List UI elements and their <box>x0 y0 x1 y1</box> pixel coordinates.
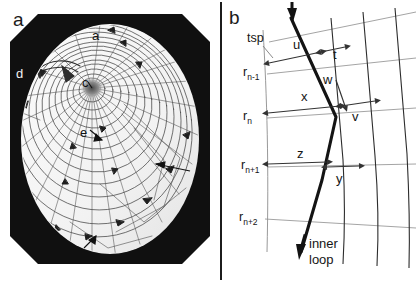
arrow-head-bottom <box>296 244 306 260</box>
rn-plus-2-sub: n+2 <box>243 217 257 227</box>
segment-label-x: x <box>301 90 308 103</box>
radius-line-rn <box>267 108 416 118</box>
feature-label-f: f <box>197 164 201 177</box>
dimension-z <box>268 162 327 164</box>
dimension-x <box>268 106 340 113</box>
annotation-inner-loop-line2: loop <box>309 252 338 268</box>
segment-label-u: u <box>293 38 300 51</box>
dimension-v <box>341 101 375 106</box>
feature-label-e: e <box>80 126 87 139</box>
feature-label-b: b <box>78 249 85 262</box>
feature-label-a: a <box>92 29 99 42</box>
panel-divider <box>220 2 222 280</box>
radius-line-rn-1 <box>267 58 416 74</box>
diagram-label-rn-minus-1: rn-1 <box>243 66 259 81</box>
figure-container: a <box>0 0 416 282</box>
segment-label-w: w <box>323 73 332 86</box>
diagram-label-rn-plus-2: rn+2 <box>239 211 258 226</box>
spiral-turn-3 <box>395 8 409 268</box>
radius-line-rn+2 <box>265 219 416 228</box>
feature-label-c: c <box>82 76 89 89</box>
segment-label-y: y <box>336 172 343 185</box>
orb-web-photo-svg <box>4 8 216 270</box>
rn-sub: n <box>247 116 252 126</box>
diagram-label-tsp: tsp <box>247 32 264 45</box>
dimension-u <box>269 52 321 63</box>
segment-label-v: v <box>352 110 359 123</box>
dimension-y <box>327 166 359 167</box>
radius-lines <box>265 12 416 228</box>
feature-label-d: d <box>16 67 23 80</box>
spiral-turn-2 <box>363 12 378 266</box>
diagram-label-rn-plus-1: rn+1 <box>241 159 260 174</box>
arrow-shaft-top <box>291 2 294 11</box>
panel-b-label: b <box>229 8 240 27</box>
dimension-arrows <box>268 47 375 167</box>
annotation-inner-loop-line1: inner <box>309 236 338 252</box>
orb-web-photograph: a d c e b f <box>4 8 216 270</box>
panel-b: b <box>223 0 416 282</box>
rn-plus-1-sub: n+1 <box>245 165 259 175</box>
segment-label-t: t <box>333 48 337 61</box>
segment-label-z: z <box>297 147 304 160</box>
panel-a: a <box>0 0 221 282</box>
rn-minus-1-sub: n-1 <box>247 72 259 82</box>
annotation-inner-loop: inner loop <box>309 236 338 268</box>
diagram-label-rn: rn <box>243 110 252 125</box>
